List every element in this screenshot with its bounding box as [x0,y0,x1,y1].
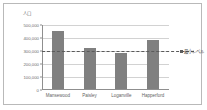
ytick-label-0: 0 [37,88,39,93]
xlabel-mansewood: Mansewood [42,93,74,98]
x-axis-line [42,89,169,90]
threshold-line [42,51,194,52]
bar-group [42,24,169,89]
bar-slot-happerford [137,24,169,89]
bar-happerford[interactable] [147,40,159,89]
bar-slot-loganville [106,24,138,89]
x-axis-labels: Mansewood Paisley Loganville Happerford [42,93,169,98]
bar-mansewood[interactable] [52,31,64,90]
ytick-label-400000: 400,000 [23,36,39,41]
xlabel-paisley: Paisley [74,93,106,98]
ytick-label-500000: 500,000 [23,23,39,28]
threshold-annotation-label: 最小レベル [184,49,204,54]
bar-loganville[interactable] [115,53,127,89]
ytick-label-300000: 300,000 [23,49,39,54]
threshold-swatch-icon [180,50,183,53]
ytick-label-200000: 200,000 [23,62,39,67]
xlabel-loganville: Loganville [106,93,138,98]
chart-container: 人口 500,000 400,000 300,000 200,000 100,0… [3,3,202,105]
y-axis-unit-label: 人口 [23,10,31,16]
bar-slot-mansewood [42,24,74,89]
bar-paisley[interactable] [84,48,96,89]
xlabel-happerford: Happerford [137,93,169,98]
bar-slot-paisley [74,24,106,89]
ytick-label-100000: 100,000 [23,75,39,80]
plot-area: 500,000 400,000 300,000 200,000 100,000 … [42,25,169,90]
threshold-annotation: 最小レベル [180,48,204,54]
